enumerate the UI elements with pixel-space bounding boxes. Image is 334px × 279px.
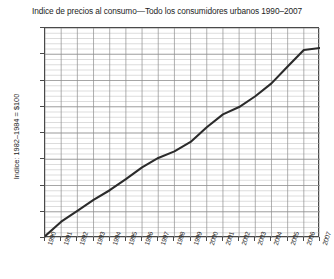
x-tick-label: 2006 [305, 231, 316, 246]
x-tick-label: 1992 [78, 231, 89, 246]
x-tick-mark [254, 237, 255, 241]
x-tick-mark [109, 237, 110, 241]
x-tick-mark [141, 237, 142, 241]
x-tick-mark [190, 237, 191, 241]
x-tick-mark [222, 237, 223, 241]
x-axis-ticks: 1990199119921993199419951996199719981999… [0, 0, 334, 279]
x-tick-label: 2002 [240, 231, 251, 246]
x-tick-label: 1996 [143, 231, 154, 246]
x-tick-mark [303, 237, 304, 241]
x-tick-mark [287, 237, 288, 241]
x-tick-label: 2001 [224, 231, 235, 246]
x-tick-mark [60, 237, 61, 241]
x-tick-label: 1994 [111, 231, 122, 246]
x-tick-mark [206, 237, 207, 241]
x-tick-label: 1998 [175, 231, 186, 246]
x-tick-label: 1997 [159, 231, 170, 246]
x-tick-mark [319, 237, 320, 241]
x-tick-mark [238, 237, 239, 241]
x-tick-mark [44, 237, 45, 241]
x-tick-label: 1995 [127, 231, 138, 246]
x-tick-mark [270, 237, 271, 241]
x-tick-label: 1990 [46, 231, 57, 246]
x-tick-label: 2004 [272, 231, 283, 246]
x-tick-mark [125, 237, 126, 241]
x-tick-mark [76, 237, 77, 241]
x-tick-label: 2005 [289, 231, 300, 246]
x-tick-label: 1993 [95, 231, 106, 246]
x-tick-mark [173, 237, 174, 241]
x-tick-mark [93, 237, 94, 241]
x-tick-label: 2003 [256, 231, 267, 246]
x-tick-label: 1991 [62, 231, 73, 246]
x-tick-label: 1999 [192, 231, 203, 246]
x-tick-mark [157, 237, 158, 241]
x-tick-label: 2007 [321, 231, 332, 246]
x-tick-label: 2000 [208, 231, 219, 246]
cpi-line-chart: Indice de precios al consumo—Todo los co… [0, 0, 334, 279]
